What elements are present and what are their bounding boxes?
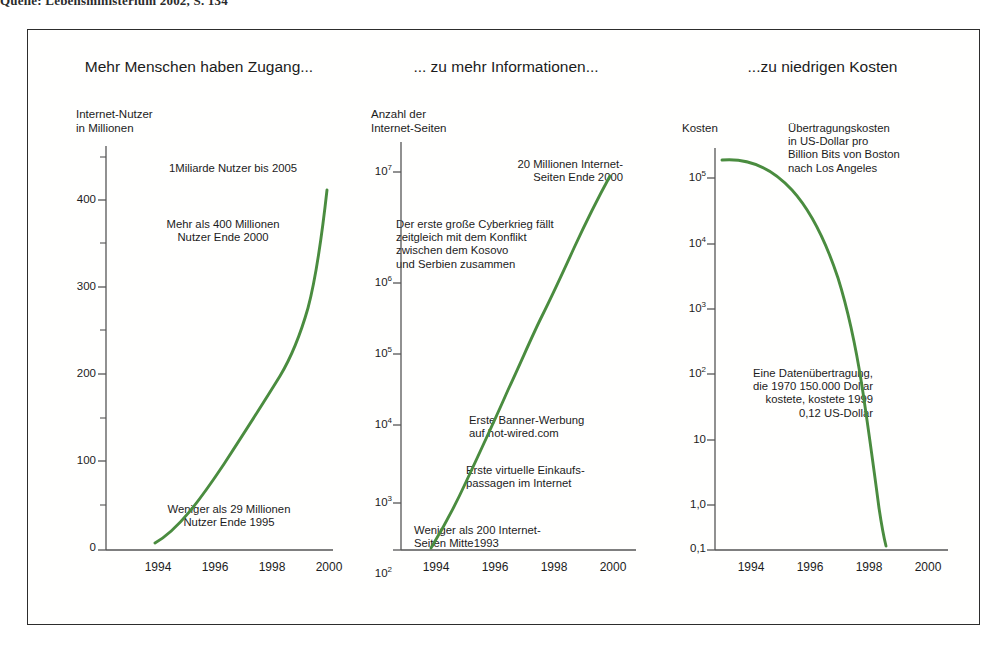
x-tick-1998: 1998 bbox=[242, 560, 302, 574]
x-tick-1994: 1994 bbox=[406, 560, 466, 574]
x-tick-1996: 1996 bbox=[185, 560, 245, 574]
plot-area-2 bbox=[346, 30, 666, 626]
source-caption: Quelle: Lebensministerium 2002, S. 134 bbox=[0, 0, 1004, 7]
x-tick-1994: 1994 bbox=[128, 560, 188, 574]
x-tick-2000: 2000 bbox=[583, 560, 643, 574]
plot-area-3 bbox=[660, 30, 981, 626]
chart-panel-internet-nutzer: Mehr Menschen haben Zugang... Internet-N… bbox=[28, 30, 358, 626]
plot-area-1 bbox=[28, 30, 358, 626]
x-tick-1996: 1996 bbox=[780, 560, 840, 574]
x-tick-1998: 1998 bbox=[839, 560, 899, 574]
chart-panel-kosten: ...zu niedrigen Kosten Kosten 105 104 10… bbox=[660, 30, 981, 626]
figure-frame: Mehr Menschen haben Zugang... Internet-N… bbox=[27, 29, 980, 625]
x-tick-1998: 1998 bbox=[524, 560, 584, 574]
x-tick-1996: 1996 bbox=[465, 560, 525, 574]
x-tick-2000: 2000 bbox=[898, 560, 958, 574]
chart-panel-internet-seiten: ... zu mehr Informationen... Anzahl der … bbox=[346, 30, 666, 626]
x-tick-1994: 1994 bbox=[721, 560, 781, 574]
